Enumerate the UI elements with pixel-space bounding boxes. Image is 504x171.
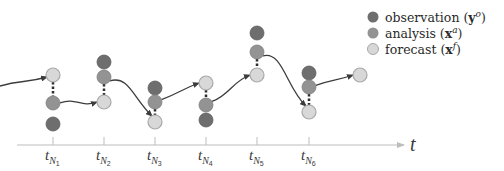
axis-tick: tN1 — [45, 137, 60, 167]
observation-point — [199, 113, 213, 127]
time-axis: tN1tN2tN3tN4tN5tN6 t — [17, 133, 416, 167]
forecast-curve — [162, 83, 199, 100]
data-assimilation-diagram: tN1tN2tN3tN4tN5tN6 t observation (yo)ana… — [0, 0, 504, 171]
forecast-point — [250, 68, 264, 82]
analysis-point — [148, 95, 162, 109]
analysis-point — [302, 80, 316, 94]
axis-tick: tN6 — [301, 137, 316, 167]
axis-ticks: tN1tN2tN3tN4tN5tN6 — [45, 137, 316, 167]
forecast-curve — [60, 101, 97, 104]
tick-label: tN3 — [147, 147, 162, 167]
state-points — [46, 26, 367, 131]
axis-tick: tN3 — [147, 137, 162, 167]
time-step — [302, 66, 316, 119]
legend-label: observation (yo) — [385, 9, 486, 25]
axis-tick: tN2 — [96, 137, 111, 167]
forecast-curve — [212, 75, 250, 101]
analysis-forecast-connectors — [53, 59, 309, 115]
forecast-point — [302, 105, 316, 119]
analysis-point — [199, 98, 213, 112]
forecast-legend-icon — [368, 44, 379, 55]
observation-point — [46, 117, 60, 131]
time-step — [46, 68, 60, 131]
legend-item-observation: observation (yo) — [368, 9, 486, 25]
forecast-curve — [263, 55, 306, 106]
analysis-point — [250, 45, 264, 59]
time-step — [148, 81, 162, 129]
observation-point — [148, 81, 162, 95]
forecast-curve — [316, 75, 353, 85]
forecast-point — [353, 68, 367, 82]
observation-point — [97, 55, 111, 69]
axis-label-t: t — [410, 133, 416, 155]
forecast-point — [148, 115, 162, 129]
axis-tick: tN5 — [249, 137, 264, 167]
legend-label: analysis (xa) — [385, 25, 462, 41]
legend-label: forecast (xf) — [385, 41, 461, 57]
observation-point — [250, 26, 264, 40]
tick-label: tN4 — [198, 147, 213, 167]
time-step — [97, 55, 111, 109]
analysis-point — [97, 70, 111, 84]
forecast-point — [46, 68, 60, 82]
forecast-curve — [0, 77, 47, 86]
analysis-point — [46, 96, 60, 110]
forecast-point — [97, 95, 111, 109]
analysis-legend-icon — [368, 28, 379, 39]
time-step — [199, 76, 213, 127]
time-step — [250, 26, 264, 82]
observation-legend-icon — [368, 12, 379, 23]
tick-label: tN2 — [96, 147, 111, 167]
tick-label: tN5 — [249, 147, 264, 167]
tick-label: tN6 — [301, 147, 316, 167]
observation-point — [302, 66, 316, 80]
forecast-point — [199, 76, 213, 90]
legend: observation (yo)analysis (xa)forecast (x… — [368, 9, 486, 57]
legend-item-forecast: forecast (xf) — [368, 41, 461, 57]
legend-item-analysis: analysis (xa) — [368, 25, 463, 41]
axis-tick: tN4 — [198, 137, 213, 167]
forecast-curve — [110, 80, 152, 116]
tick-label: tN1 — [45, 147, 60, 167]
